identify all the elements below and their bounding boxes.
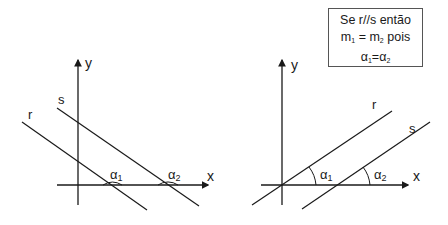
left-alpha1-label: α1 — [110, 167, 123, 183]
right-diagram: y x r s α1 α2 — [252, 57, 430, 209]
note-line-1: Se r//s então — [329, 12, 422, 29]
right-y-label: y — [291, 57, 298, 73]
left-y-label: y — [85, 55, 92, 71]
right-line-r-label: r — [372, 97, 377, 112]
right-line-r — [252, 111, 392, 205]
parallel-lines-note: Se r//s então m1 = m2 pois α1=α2 — [328, 8, 423, 67]
left-line-s-label: s — [58, 92, 65, 107]
note-line-2: m1 = m2 pois — [329, 29, 422, 49]
left-alpha2-label: α2 — [168, 167, 181, 183]
right-angle-arc-1 — [309, 167, 316, 185]
right-angle-arc-2 — [363, 167, 370, 185]
left-line-r — [22, 122, 147, 210]
left-line-r-label: r — [28, 107, 33, 122]
right-alpha2-label: α2 — [374, 167, 387, 183]
left-diagram: y x s r α1 α2 — [22, 55, 214, 210]
right-line-s-label: s — [409, 121, 416, 136]
right-x-label: x — [413, 168, 420, 184]
left-x-label: x — [207, 168, 214, 184]
note-line-3: α1=α2 — [329, 49, 422, 69]
right-alpha1-label: α1 — [320, 167, 333, 183]
